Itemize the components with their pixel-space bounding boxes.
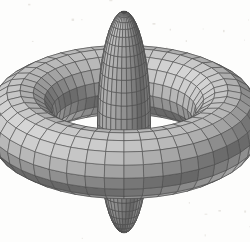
mesh-facet	[118, 203, 122, 212]
mesh-facet	[124, 165, 144, 179]
mesh-facet	[86, 150, 106, 165]
mesh-facet	[142, 150, 162, 165]
background-speck	[153, 23, 156, 25]
mesh-facet	[121, 106, 127, 119]
mesh-facet	[123, 14, 124, 18]
mesh-facet	[107, 90, 112, 104]
mesh-facet	[137, 103, 142, 118]
mesh-facet	[124, 12, 125, 14]
background-speck	[189, 202, 190, 204]
mesh-facet	[126, 57, 131, 69]
background-speck	[186, 40, 187, 42]
mesh-facet	[116, 93, 121, 107]
mesh-facet	[117, 57, 122, 69]
background-speck	[249, 226, 250, 227]
mesh-facet	[122, 68, 127, 80]
background-speck	[218, 210, 221, 212]
mesh-facet	[122, 219, 125, 225]
mesh-facet	[107, 133, 124, 141]
mesh-facet	[122, 29, 125, 37]
mesh-facet	[126, 211, 130, 219]
mesh-facet	[131, 79, 136, 92]
mesh-facet	[103, 102, 107, 117]
background-speck	[28, 4, 30, 6]
mesh-facet	[123, 18, 125, 23]
mesh-facet	[160, 147, 180, 163]
mesh-facet	[142, 115, 146, 130]
background-speck	[72, 19, 75, 21]
surface-plot-svg	[0, 0, 250, 242]
background-speck	[203, 29, 204, 30]
mesh-facet	[122, 57, 127, 68]
background-speck	[109, 0, 112, 1]
mesh-facet	[122, 47, 126, 57]
mesh-facet	[132, 92, 137, 106]
mesh-facet	[100, 113, 103, 128]
mesh-facet	[123, 23, 126, 30]
mesh-facet	[153, 83, 163, 98]
background-speck	[244, 40, 245, 41]
background-speck	[82, 238, 83, 239]
mesh-facet	[104, 165, 124, 179]
mesh-facet	[124, 178, 144, 190]
mesh-facet	[132, 105, 137, 119]
mesh-facet	[104, 178, 124, 190]
mesh-facet	[126, 203, 130, 212]
mesh-facet	[143, 163, 163, 178]
mesh-facet	[124, 133, 141, 141]
mesh-facet	[123, 229, 125, 232]
mesh-facet	[141, 102, 145, 117]
background-speck	[81, 19, 83, 20]
background-speck	[205, 234, 206, 236]
background-speck	[244, 211, 246, 213]
mesh-facet	[85, 163, 105, 178]
mesh-facet	[119, 211, 123, 219]
mesh-facet	[68, 147, 88, 163]
mesh-facet	[145, 113, 148, 128]
mesh-facet	[117, 68, 122, 80]
mesh-facet	[106, 103, 111, 118]
mesh-facet	[126, 68, 131, 80]
mesh-facet	[105, 189, 124, 197]
mesh-facet	[112, 67, 117, 80]
mesh-facet	[141, 139, 160, 152]
mesh-facet	[124, 151, 143, 165]
background-speck	[32, 41, 34, 42]
mesh-facet	[121, 80, 126, 93]
mesh-facet	[85, 176, 105, 189]
mesh-facet	[127, 93, 132, 107]
mesh-facet	[88, 139, 107, 152]
mesh-facet	[123, 225, 126, 229]
mesh-facet	[116, 80, 121, 93]
background-speck	[248, 19, 249, 20]
mesh-facet	[111, 92, 116, 106]
mesh-facet	[85, 83, 95, 98]
mesh-facet	[106, 140, 124, 152]
mesh-facet	[124, 140, 142, 152]
mesh-facet	[121, 93, 126, 106]
background-speck	[170, 29, 171, 31]
background-speck	[223, 30, 225, 32]
mesh-facet	[122, 203, 126, 212]
mesh-facet	[116, 106, 121, 120]
mesh-facet	[126, 37, 130, 46]
mesh-facet	[105, 151, 124, 165]
background-speck	[205, 214, 208, 215]
figure-canvas	[0, 0, 250, 242]
mesh-facet	[124, 189, 143, 197]
mesh-facet	[136, 90, 141, 104]
mesh-facet	[143, 176, 163, 189]
mesh-facet	[127, 106, 132, 120]
mesh-facet	[112, 79, 117, 92]
mesh-facet	[122, 37, 126, 46]
mesh-facet	[131, 67, 136, 80]
mesh-facet	[111, 105, 116, 119]
mesh-facet	[126, 80, 131, 93]
mesh-facet	[126, 46, 130, 57]
mesh-facet	[118, 46, 122, 57]
mesh-facet	[119, 37, 123, 46]
mesh-facet	[103, 115, 107, 130]
mesh-facet	[122, 212, 126, 219]
